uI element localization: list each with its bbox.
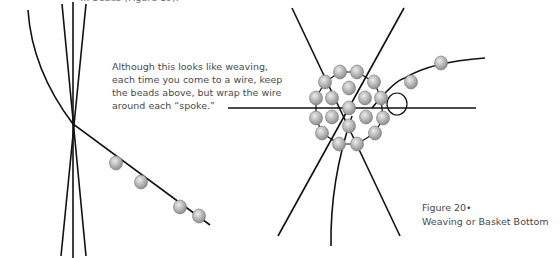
note-line: each time you come to a wire, keep [112, 73, 292, 86]
figure-label: Figure 20• [422, 201, 548, 215]
figure-title: Weaving or Basket Bottom [422, 215, 548, 229]
left-beads [110, 156, 206, 223]
wrap-circle-marker [387, 93, 407, 115]
working-wire-beads [405, 56, 448, 89]
note-line: the beads above, but wrap the wire [112, 86, 292, 99]
working-wire [372, 58, 485, 108]
figure-caption: Figure 20• Weaving or Basket Bottom [422, 201, 548, 229]
left-spokes-group [28, 2, 210, 258]
note-line: Although this looks like weaving, [112, 60, 292, 73]
beaded-wire [28, 10, 210, 225]
note-line: around each “spoke.” [112, 99, 292, 112]
instruction-note: Although this looks like weaving, each t… [112, 60, 292, 112]
